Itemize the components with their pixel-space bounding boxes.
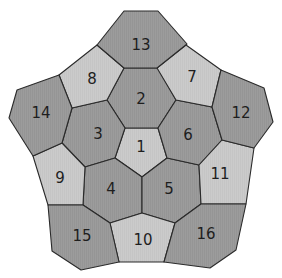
cell-label-16: 16 bbox=[196, 225, 215, 243]
cell-label-2: 2 bbox=[136, 90, 146, 108]
cell-label-5: 5 bbox=[164, 180, 174, 198]
cell-label-13: 13 bbox=[131, 36, 150, 54]
cell-label-3: 3 bbox=[93, 125, 103, 143]
cell-label-14: 14 bbox=[31, 104, 50, 122]
cell-label-9: 9 bbox=[55, 169, 65, 187]
cell-label-15: 15 bbox=[72, 227, 91, 245]
cell-label-7: 7 bbox=[187, 68, 197, 86]
cell-label-4: 4 bbox=[106, 180, 116, 198]
cell-label-6: 6 bbox=[183, 126, 193, 144]
cell-label-1: 1 bbox=[136, 138, 146, 156]
cell-label-12: 12 bbox=[231, 104, 250, 122]
pentagon-tiling-diagram: 12345678910111213141516 bbox=[0, 0, 282, 278]
cell-label-8: 8 bbox=[87, 70, 97, 88]
cell-label-11: 11 bbox=[210, 165, 229, 183]
cell-label-10: 10 bbox=[133, 231, 152, 249]
